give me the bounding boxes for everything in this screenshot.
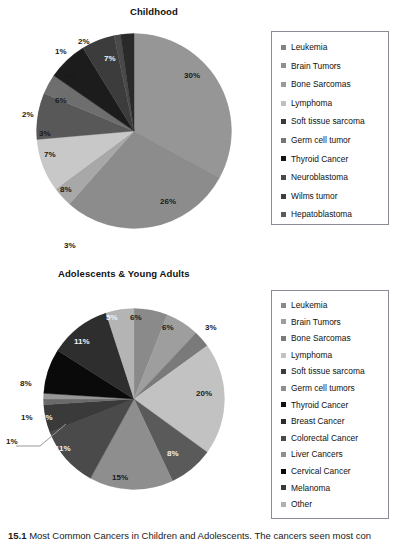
pie1-label-hepatoblastoma: 2% xyxy=(78,38,90,46)
pie2-label-other: 5% xyxy=(106,314,118,322)
legend-swatch-icon xyxy=(281,156,286,161)
legend-item-thyroid-cancer[interactable]: Thyroid Cancer xyxy=(281,397,381,414)
legend-item-bone-sarcomas[interactable]: Bone Sarcomas xyxy=(281,330,381,347)
legend-label: Neuroblastoma xyxy=(291,173,348,181)
legend-childhood: LeukemiaBrain TumorsBone SarcomasLymphom… xyxy=(271,31,389,225)
pie-chart-aya xyxy=(43,308,225,490)
pie2-label-cervical: 8% xyxy=(20,380,32,388)
legend-label: Germ cell tumor xyxy=(291,136,351,144)
legend-swatch-icon xyxy=(281,175,286,180)
legend-label: Other xyxy=(291,500,312,508)
pie1-label-bone: 3% xyxy=(64,242,76,250)
legend-swatch-icon xyxy=(281,469,286,474)
figure-caption-text: Most Common Cancers in Children and Adol… xyxy=(29,530,371,541)
pie1-label-leukemia: 30% xyxy=(184,72,200,80)
legend-swatch-icon xyxy=(281,319,286,324)
figure-caption-number: 15.1 xyxy=(8,530,27,541)
legend-swatch-icon xyxy=(281,436,286,441)
legend-item-brain-tumors[interactable]: Brain Tumors xyxy=(281,314,381,331)
legend-label: Lymphoma xyxy=(291,99,332,107)
pie-aya-svg xyxy=(43,308,225,490)
legend-label: Leukemia xyxy=(291,43,327,51)
legend-swatch-icon xyxy=(281,63,286,68)
legend-item-cervical-cancer[interactable]: Cervical Cancer xyxy=(281,463,381,480)
legend-item-neuroblastoma[interactable]: Neuroblastoma xyxy=(281,168,381,187)
pie2-label-thyroid: 11% xyxy=(55,445,71,453)
pie-chart-childhood xyxy=(36,33,232,229)
legend-label: Colorectal Cancer xyxy=(291,434,358,442)
pie1-label-thyroid: 6% xyxy=(55,97,67,105)
legend-item-hepatoblastoma[interactable]: Hepatoblastoma xyxy=(281,205,381,224)
chart-panel-aya: Adolescents & Young Adults 6% 6% 3% 20% … xyxy=(0,262,396,522)
legend-label: Thyroid Cancer xyxy=(291,155,348,163)
legend-item-leukemia[interactable]: Leukemia xyxy=(281,297,381,314)
pie2-label-lymphoma: 20% xyxy=(196,390,212,398)
legend-label: Cervical Cancer xyxy=(291,467,351,475)
legend-item-soft-tissue-sarcoma[interactable]: Soft tissue sarcoma xyxy=(281,363,381,380)
legend-item-thyroid-cancer[interactable]: Thyroid Cancer xyxy=(281,150,381,169)
legend-swatch-icon xyxy=(281,194,286,199)
legend-swatch-icon xyxy=(281,353,286,358)
pie2-label-soft-tissue: 8% xyxy=(167,450,179,458)
legend-item-leukemia[interactable]: Leukemia xyxy=(281,38,381,57)
legend-item-germ-cell-tumors[interactable]: Germ cell tumors xyxy=(281,380,381,397)
pie1-label-soft-tissue: 7% xyxy=(44,151,56,159)
pie1-label-germ-cell: 3% xyxy=(39,130,51,138)
legend-label: Liver Cancers xyxy=(291,450,343,458)
legend-swatch-icon xyxy=(281,45,286,50)
legend-item-other[interactable]: Other xyxy=(281,496,381,513)
legend-label: Soft tissue sarcoma xyxy=(291,117,365,125)
legend-label: Leukemia xyxy=(291,301,327,309)
legend-label: Soft tissue sarcoma xyxy=(291,367,365,375)
legend-swatch-icon xyxy=(281,402,286,407)
pie1-label-inner-7pct: 7% xyxy=(104,55,116,63)
legend-swatch-icon xyxy=(281,82,286,87)
legend-swatch-icon xyxy=(281,419,286,424)
pie2-label-liver: 1% xyxy=(21,414,33,422)
legend-item-liver-cancers[interactable]: Liver Cancers xyxy=(281,446,381,463)
legend-swatch-icon xyxy=(281,502,286,507)
pie1-label-lymphoma: 8% xyxy=(60,186,72,194)
legend-label: Brain Tumors xyxy=(291,62,341,70)
figure-caption: 15.1 Most Common Cancers in Children and… xyxy=(8,530,396,541)
pie2-label-brain: 6% xyxy=(162,324,174,332)
pie2-label-leukemia: 6% xyxy=(130,314,142,322)
pie2-label-breast: 5% xyxy=(41,414,53,422)
legend-item-colorectal-cancer[interactable]: Colorectal Cancer xyxy=(281,430,381,447)
legend-aya: LeukemiaBrain TumorsBone SarcomasLymphom… xyxy=(271,290,389,519)
chart-panel-childhood: Childhood 30% 26% 3% 8% 7% 3% 6% 5% 1% 2… xyxy=(0,0,396,262)
pie2-label-colorectal: 1% xyxy=(6,438,18,446)
chart-title-childhood: Childhood xyxy=(130,6,178,17)
pie1-label-brain: 26% xyxy=(160,198,176,206)
legend-item-brain-tumors[interactable]: Brain Tumors xyxy=(281,57,381,76)
legend-swatch-icon xyxy=(281,336,286,341)
legend-swatch-icon xyxy=(281,212,286,217)
legend-label: Melanoma xyxy=(291,484,330,492)
legend-swatch-icon xyxy=(281,101,286,106)
legend-item-wilms-tumor[interactable]: Wilms tumor xyxy=(281,187,381,206)
legend-label: Bone Sarcomas xyxy=(291,334,351,342)
legend-label: Brain Tumors xyxy=(291,318,341,326)
chart-title-aya: Adolescents & Young Adults xyxy=(58,268,190,279)
legend-item-bone-sarcomas[interactable]: Bone Sarcomas xyxy=(281,75,381,94)
legend-item-lymphoma[interactable]: Lymphoma xyxy=(281,347,381,364)
legend-swatch-icon xyxy=(281,138,286,143)
pie2-label-bone: 3% xyxy=(205,324,217,332)
legend-label: Hepatoblastoma xyxy=(291,210,352,218)
legend-label: Breast Cancer xyxy=(291,417,345,425)
pie1-label-neuroblastoma: 5% xyxy=(64,73,76,81)
legend-swatch-icon xyxy=(281,303,286,308)
legend-swatch-icon xyxy=(281,452,286,457)
legend-item-melanoma[interactable]: Melanoma xyxy=(281,480,381,497)
legend-swatch-icon xyxy=(281,369,286,374)
legend-item-soft-tissue-sarcoma[interactable]: Soft tissue sarcoma xyxy=(281,112,381,131)
legend-swatch-icon xyxy=(281,119,286,124)
legend-item-lymphoma[interactable]: Lymphoma xyxy=(281,94,381,113)
pie-childhood-svg xyxy=(36,33,232,229)
legend-label: Bone Sarcomas xyxy=(291,80,351,88)
legend-label: Wilms tumor xyxy=(291,192,338,200)
pie1-label-wilms: 1% xyxy=(55,48,67,56)
pie2-label-melanoma: 11% xyxy=(74,338,90,346)
legend-item-germ-cell-tumor[interactable]: Germ cell tumor xyxy=(281,131,381,150)
legend-item-breast-cancer[interactable]: Breast Cancer xyxy=(281,413,381,430)
